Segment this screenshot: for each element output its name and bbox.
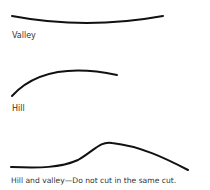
hill-label: Hill: [12, 104, 25, 113]
hill-and-valley-label: Hill and valley—Do not cut in the same c…: [11, 176, 176, 185]
curves-canvas: [0, 0, 210, 190]
valley-curve: [12, 16, 163, 23]
hill-curve: [12, 71, 117, 96]
valley-label: Valley: [12, 31, 36, 40]
hill-and-valley-curve: [11, 143, 188, 170]
